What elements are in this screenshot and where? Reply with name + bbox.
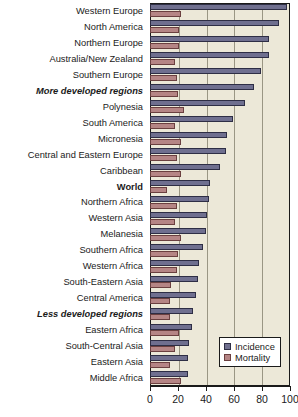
category-label: Northern Africa [81, 197, 143, 207]
bar-group [150, 195, 290, 211]
bar-incidence [150, 84, 254, 90]
bar-incidence [150, 308, 193, 314]
category-label: Eastern Asia [91, 357, 143, 367]
bar-mortality [150, 107, 184, 113]
bar-incidence [150, 355, 188, 361]
bar-mortality [150, 27, 179, 33]
legend-label-mortality: Mortality [235, 353, 270, 363]
category-label: Northern Europe [74, 38, 143, 48]
x-axis-line [150, 386, 291, 387]
category-label: More developed regions [36, 86, 143, 96]
bar-mortality [150, 75, 177, 81]
bar-mortality [150, 11, 181, 17]
category-label: Central and Eastern Europe [28, 150, 143, 160]
bar-group [150, 147, 290, 163]
bar-incidence [150, 68, 261, 74]
category-label: Southern Africa [79, 245, 143, 255]
bar-mortality [150, 378, 181, 384]
bar-incidence [150, 371, 188, 377]
bar-incidence [150, 212, 207, 218]
legend-swatch-incidence [224, 343, 231, 350]
category-axis-labels: Western EuropeNorth AmericaNorthern Euro… [0, 3, 147, 386]
bar-mortality [150, 346, 175, 352]
bar-mortality [150, 203, 177, 209]
bar-mortality [150, 235, 181, 241]
bar-group [150, 131, 290, 147]
bar-mortality [150, 59, 175, 65]
category-label: Central America [77, 293, 143, 303]
x-tick [206, 386, 207, 391]
bar-incidence [150, 324, 192, 330]
bar-mortality [150, 251, 178, 257]
category-label: Middle Africa [90, 373, 143, 383]
bar-incidence [150, 276, 198, 282]
category-label: Polynesia [103, 102, 143, 112]
category-label: Less developed regions [37, 309, 143, 319]
bar-group [150, 242, 290, 258]
category-label: Micronesia [98, 134, 143, 144]
bar-group [150, 35, 290, 51]
bar-group [150, 67, 290, 83]
category-label: South-Central Asia [65, 341, 143, 351]
bar-group [150, 274, 290, 290]
bar-mortality [150, 123, 175, 129]
bar-group [150, 163, 290, 179]
bar-incidence [150, 228, 206, 234]
bar-incidence [150, 116, 233, 122]
x-tick [290, 386, 291, 391]
category-label: North America [84, 22, 143, 32]
bar-mortality [150, 91, 178, 97]
bar-mortality [150, 219, 175, 225]
category-label: Australia/New Zealand [49, 54, 143, 64]
bar-group [150, 290, 290, 306]
bar-group [150, 258, 290, 274]
category-label: Caribbean [100, 166, 143, 176]
bar-group [150, 322, 290, 338]
bar-mortality [150, 139, 181, 145]
bar-incidence [150, 340, 189, 346]
bar-incidence [150, 196, 209, 202]
category-label: Western Africa [83, 261, 143, 271]
bar-incidence [150, 164, 220, 170]
legend-swatch-mortality [224, 354, 231, 361]
x-tick [234, 386, 235, 391]
bar-group [150, 370, 290, 386]
x-tick [178, 386, 179, 391]
bar-mortality [150, 267, 177, 273]
x-tick-label: 40 [200, 393, 212, 405]
bar-incidence [150, 4, 287, 10]
bar-group [150, 210, 290, 226]
category-label: Western Europe [76, 6, 143, 16]
x-tick [150, 386, 151, 391]
bar-group [150, 99, 290, 115]
bar-mortality [150, 171, 181, 177]
x-tick [262, 386, 263, 391]
bar-incidence [150, 244, 203, 250]
bar-group [150, 19, 290, 35]
bar-mortality [150, 155, 177, 161]
bar-mortality [150, 187, 167, 193]
bar-chart: Western EuropeNorth AmericaNorthern Euro… [0, 0, 298, 417]
bar-mortality [150, 298, 170, 304]
category-label: Southern Europe [73, 70, 143, 80]
bar-mortality [150, 314, 170, 320]
category-label: South America [83, 118, 143, 128]
bar-incidence [150, 148, 226, 154]
legend-item-mortality: Mortality [224, 352, 275, 363]
x-tick-label: 0 [147, 393, 153, 405]
bar-group [150, 51, 290, 67]
legend-label-incidence: Incidence [235, 342, 275, 352]
legend-item-incidence: Incidence [224, 341, 275, 352]
bar-mortality [150, 330, 179, 336]
bar-group [150, 306, 290, 322]
bar-group [150, 83, 290, 99]
category-label: Eastern Africa [85, 325, 143, 335]
category-label: Western Asia [88, 213, 143, 223]
bar-group [150, 3, 290, 19]
bar-incidence [150, 180, 210, 186]
bar-incidence [150, 36, 269, 42]
x-tick-label: 80 [256, 393, 268, 405]
category-label: South-Eastern Asia [63, 277, 143, 287]
bar-group [150, 115, 290, 131]
bar-incidence [150, 292, 196, 298]
